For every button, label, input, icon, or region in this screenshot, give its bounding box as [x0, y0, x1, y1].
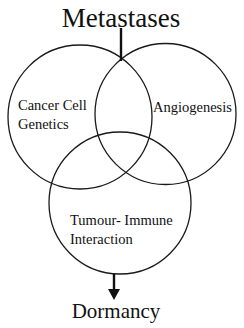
- tumour-immune-label-line2: Interaction: [70, 231, 134, 247]
- circle-tumour-immune-interaction: [49, 132, 191, 274]
- cancer-cell-genetics-label-line1: Cancer Cell: [18, 97, 87, 113]
- tumour-immune-label-line1: Tumour- Immune: [70, 212, 173, 228]
- venn-diagram: Metastases Cancer Cell Genetics Angiogen…: [0, 0, 244, 328]
- metastases-label: Metastases: [62, 3, 180, 33]
- cancer-cell-genetics-label-line2: Genetics: [18, 116, 69, 132]
- angiogenesis-label: Angiogenesis: [153, 99, 232, 115]
- dormancy-label: Dormancy: [72, 299, 161, 323]
